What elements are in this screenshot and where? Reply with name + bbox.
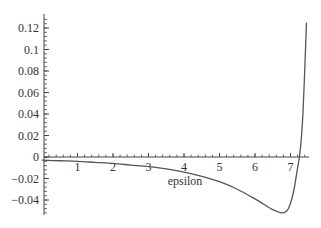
y-tick-label: 0.12 — [18, 21, 39, 35]
y-axis: −0.04−0.0200.020.040.060.080.10.12 — [11, 14, 49, 215]
x-tick-label: 6 — [252, 160, 258, 174]
y-tick-label: 0.08 — [18, 64, 39, 78]
x-tick-label: 1 — [75, 160, 81, 174]
line-chart: −0.04−0.0200.020.040.060.080.10.12 12345… — [0, 0, 321, 228]
x-tick-label: 7 — [288, 160, 294, 174]
y-tick-label: 0.06 — [18, 86, 39, 100]
y-tick-label: −0.04 — [11, 193, 39, 207]
y-tick-label: 0.04 — [18, 107, 39, 121]
y-tick-label: 0.1 — [24, 43, 39, 57]
x-tick-label: 2 — [110, 160, 116, 174]
y-tick-label: −0.02 — [11, 172, 39, 186]
x-tick-label: 5 — [217, 160, 223, 174]
y-tick-label: 0.02 — [18, 129, 39, 143]
x-axis-label: epsilon — [168, 174, 203, 188]
y-tick-label: 0 — [33, 150, 39, 164]
